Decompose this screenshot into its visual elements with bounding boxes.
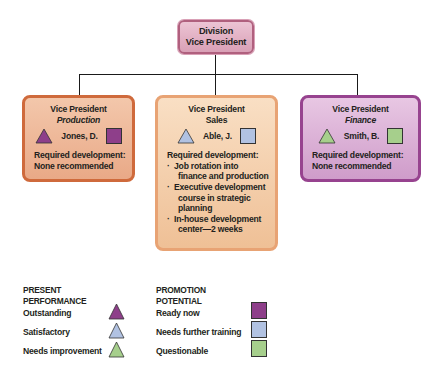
vp-title: Vice President: [158, 104, 275, 115]
potential-needs-training-icon: [240, 128, 256, 144]
development-line: In-house development: [174, 214, 275, 225]
performance-needs-improvement-icon: [318, 128, 336, 144]
development-item: In-house development center—2 weeks: [167, 214, 275, 235]
development-line: finance and production: [174, 171, 275, 182]
development-line: course in strategic: [174, 193, 275, 204]
person-row: Able, J.: [158, 128, 275, 144]
legend-needs-training-label: Needs further training: [156, 327, 241, 337]
potential-questionable-icon: [387, 128, 403, 144]
legend-performance-heading: PRESENT PERFORMANCE: [23, 285, 86, 306]
vp-production-box: Vice President Production Jones, D. Requ…: [22, 95, 135, 182]
required-development-label: Required development:: [312, 150, 418, 161]
person-name: Jones, D.: [61, 131, 97, 142]
development-text: None recommended: [34, 161, 132, 172]
person-row: Smith, B.: [303, 128, 418, 144]
development-line: center—2 weeks: [174, 224, 275, 235]
performance-satisfactory-icon: [177, 128, 195, 144]
development-item: Job rotation into finance and production: [167, 161, 275, 182]
legend-square-blue-icon: [251, 321, 267, 338]
division-label: Division: [180, 26, 252, 37]
vp-department: Production: [25, 115, 132, 126]
legend-needs-improvement-label: Needs improvement: [23, 346, 102, 356]
development-text: None recommended: [312, 161, 418, 172]
legend-heading-line: PRESENT: [23, 285, 86, 296]
legend-ready-now-label: Ready now: [156, 308, 200, 318]
legend-triangle-purple-icon: [108, 303, 125, 320]
connector-top-vertical: [215, 50, 216, 95]
legend-triangle-blue-icon: [108, 322, 125, 339]
vp-sales-box: Vice President Sales Able, J. Required d…: [155, 95, 278, 251]
legend-square-green-icon: [251, 340, 267, 357]
legend-potential-heading: PROMOTION POTENTIAL: [156, 285, 206, 306]
development-line: Executive development: [174, 182, 275, 193]
vp-finance-box: Vice President Finance Smith, B. Require…: [300, 95, 421, 182]
potential-ready-now-icon: [106, 128, 122, 144]
connector-left-vertical: [79, 74, 80, 95]
legend-heading-line: PERFORMANCE: [23, 296, 86, 307]
person-name: Able, J.: [203, 131, 232, 142]
development-line: planning: [174, 203, 275, 214]
required-development-label: Required development:: [34, 150, 132, 161]
development-line: Job rotation into: [174, 161, 275, 172]
development-item: Executive development course in strategi…: [167, 182, 275, 214]
vp-title: Vice President: [25, 104, 132, 115]
division-title: Vice President: [180, 37, 252, 48]
vp-department: Sales: [158, 115, 275, 126]
connector-horizontal: [79, 74, 358, 75]
legend-square-purple-icon: [251, 302, 267, 319]
development-list: Job rotation into finance and production…: [167, 161, 275, 235]
connector-right-vertical: [357, 74, 358, 95]
performance-outstanding-icon: [35, 128, 53, 144]
legend-satisfactory-label: Satisfactory: [23, 327, 70, 337]
person-row: Jones, D.: [25, 128, 132, 144]
division-vp-box: Division Vice President: [178, 20, 254, 54]
person-name: Smith, B.: [344, 131, 379, 142]
legend-questionable-label: Questionable: [156, 346, 208, 356]
vp-department: Finance: [303, 115, 418, 126]
required-development-label: Required development:: [167, 150, 275, 161]
legend-outstanding-label: Outstanding: [23, 308, 71, 318]
legend-heading-line: POTENTIAL: [156, 296, 206, 307]
vp-title: Vice President: [303, 104, 418, 115]
legend-triangle-green-icon: [108, 341, 125, 358]
legend-heading-line: PROMOTION: [156, 285, 206, 296]
